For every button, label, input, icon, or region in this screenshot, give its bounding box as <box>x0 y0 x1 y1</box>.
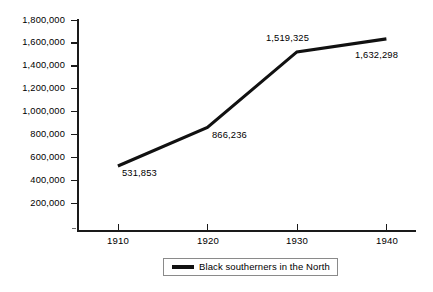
x-axis-line <box>77 230 416 232</box>
chart-legend: Black southerners in the North <box>163 258 338 276</box>
y-axis-tick <box>71 111 78 112</box>
y-axis-tick <box>71 88 78 89</box>
y-axis-label: 1,200,000 <box>22 84 65 93</box>
x-axis-label: 1920 <box>197 236 219 246</box>
data-point-label-1940: 1,632,298 <box>355 50 398 59</box>
x-axis-label: 1940 <box>376 236 398 246</box>
y-axis-tick <box>71 20 78 21</box>
y-axis-tick <box>71 180 78 181</box>
y-axis-tick <box>71 42 78 43</box>
y-axis-tick-zero <box>72 228 76 229</box>
y-axis-label: 600,000 <box>30 153 65 162</box>
y-axis-label: 1,800,000 <box>22 16 65 25</box>
x-axis-label: 1910 <box>107 236 129 246</box>
y-axis-label: 1,400,000 <box>22 61 65 70</box>
y-axis-line <box>77 19 79 232</box>
legend-item-label: Black southerners in the North <box>199 262 330 272</box>
y-axis-tick <box>71 65 78 66</box>
y-axis-label: 200,000 <box>30 199 65 208</box>
y-axis-label: 1,600,000 <box>22 38 65 47</box>
y-axis-tick <box>71 203 78 204</box>
x-axis-tick <box>118 224 119 231</box>
x-axis-label: 1930 <box>286 236 308 246</box>
y-axis-label: 400,000 <box>30 176 65 185</box>
y-axis-label: 800,000 <box>30 130 65 139</box>
y-axis-tick <box>71 157 78 158</box>
x-axis-tick <box>297 224 298 231</box>
x-axis-tick <box>386 224 387 231</box>
data-point-label-1910: 531,853 <box>122 168 157 177</box>
x-axis-tick <box>207 224 208 231</box>
data-point-label-1920: 866,236 <box>212 130 247 139</box>
line-chart: 1,800,000 1,600,000 1,400,000 1,200,000 … <box>0 0 433 292</box>
data-point-label-1930: 1,519,325 <box>266 33 309 42</box>
y-axis-tick <box>71 134 78 135</box>
legend-color-swatch <box>172 265 194 268</box>
y-axis-label: 1,000,000 <box>22 107 65 116</box>
